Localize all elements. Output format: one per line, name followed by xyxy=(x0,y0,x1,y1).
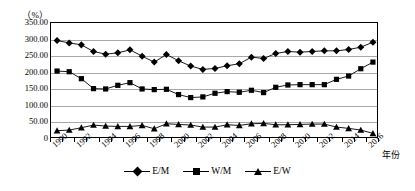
data-point xyxy=(297,82,302,87)
y-axis-tick-label: 250.00 xyxy=(25,50,48,60)
data-point xyxy=(54,68,59,73)
data-point xyxy=(139,53,146,60)
data-point xyxy=(90,122,97,128)
data-point xyxy=(127,80,132,85)
data-point xyxy=(225,89,230,94)
data-point xyxy=(66,39,73,46)
legend-label: E/M xyxy=(152,166,169,176)
series-e-m xyxy=(54,37,377,73)
data-point xyxy=(176,92,181,97)
data-point xyxy=(102,51,109,58)
data-point xyxy=(285,82,290,87)
triangle-icon xyxy=(254,168,262,175)
y-axis-tick-label: 200.00 xyxy=(25,67,48,77)
data-point xyxy=(284,48,291,55)
data-point xyxy=(199,66,206,73)
data-point xyxy=(272,50,279,57)
data-point xyxy=(345,46,352,53)
legend-marker-triangle-icon xyxy=(245,166,271,176)
data-point xyxy=(67,69,72,74)
legend-item-e-w[interactable]: E/W xyxy=(245,166,290,176)
data-point xyxy=(115,83,120,88)
data-point xyxy=(273,85,278,90)
data-point xyxy=(175,57,182,64)
data-point xyxy=(78,41,85,48)
data-point xyxy=(211,65,218,72)
data-point xyxy=(248,54,255,61)
data-point xyxy=(333,47,340,54)
data-point xyxy=(357,44,364,51)
legend-label: E/W xyxy=(273,166,290,176)
legend-item-w-m[interactable]: W/M xyxy=(183,166,231,176)
chart-container: （%） 350.00300.00250.00200.00150.00100.00… xyxy=(0,0,415,191)
legend-label: W/M xyxy=(211,166,231,176)
data-point xyxy=(261,90,266,95)
chart-legend: E/MW/ME/W xyxy=(0,166,415,176)
data-point xyxy=(321,47,328,54)
data-point xyxy=(187,63,194,70)
data-point xyxy=(260,55,267,62)
legend-item-e-m[interactable]: E/M xyxy=(124,166,169,176)
data-point xyxy=(369,39,376,46)
data-point xyxy=(249,88,254,93)
x-axis-title: 年份 xyxy=(382,148,400,161)
data-point xyxy=(224,62,231,69)
data-point xyxy=(152,87,157,92)
legend-marker-diamond-icon xyxy=(124,166,150,176)
data-point xyxy=(91,86,96,91)
data-point xyxy=(200,94,205,99)
legend-marker-square-icon xyxy=(183,166,209,176)
diamond-icon xyxy=(132,166,142,176)
y-axis-tick-label: 100.00 xyxy=(25,100,48,110)
y-axis-tick-label: 50.00 xyxy=(29,116,48,126)
data-point xyxy=(236,60,243,67)
data-point xyxy=(310,82,315,87)
data-point xyxy=(163,51,170,58)
data-point xyxy=(54,37,61,44)
data-point xyxy=(358,66,363,71)
square-icon xyxy=(193,168,200,175)
y-axis-tick-label: 150.00 xyxy=(25,83,48,93)
data-point xyxy=(164,87,169,92)
plot-area xyxy=(50,22,378,138)
y-axis-tick-label: 350.00 xyxy=(25,17,48,27)
y-axis-tick-label: 300.00 xyxy=(25,34,48,44)
data-point xyxy=(212,91,217,96)
data-point xyxy=(79,76,84,81)
data-point xyxy=(346,73,351,78)
data-point xyxy=(309,48,316,55)
data-point xyxy=(151,59,158,66)
data-point xyxy=(334,77,339,82)
data-point xyxy=(297,49,304,56)
data-point xyxy=(188,95,193,100)
data-point xyxy=(103,86,108,91)
data-point xyxy=(140,86,145,91)
data-point xyxy=(139,122,146,128)
data-point xyxy=(370,60,375,65)
series-layer xyxy=(51,23,379,139)
data-point xyxy=(237,90,242,95)
data-point xyxy=(114,49,121,56)
data-point xyxy=(90,48,97,55)
data-point xyxy=(322,82,327,87)
data-point xyxy=(126,46,133,53)
